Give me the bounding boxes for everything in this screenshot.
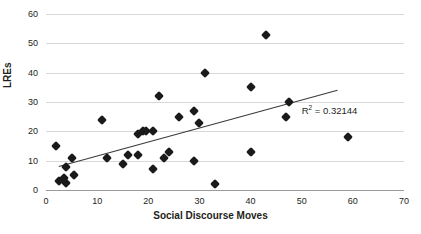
trendline [46,14,404,190]
x-tick-label-40: 40 [246,196,256,206]
x-tick-label-60: 60 [348,196,358,206]
y-tick-label-0: 0 [8,185,38,195]
r-squared-annotation: R2 = 0.32144 [302,104,358,116]
x-tick-label-0: 0 [43,196,48,206]
y-axis-ticks: 0102030405060 [0,0,46,234]
y-tick-label-60: 60 [8,9,38,19]
y-tick-label-30: 30 [8,97,38,107]
y-tick-label-20: 20 [8,126,38,136]
scatter-chart: 0102030405060 010203040506070 R2 = 0.321… [0,0,421,234]
x-tick-label-50: 50 [297,196,307,206]
y-tick-label-10: 10 [8,156,38,166]
x-tick-label-70: 70 [399,196,409,206]
gridline-y-0 [46,190,404,191]
x-tick-label-30: 30 [194,196,204,206]
x-tick-label-20: 20 [143,196,153,206]
y-tick-label-50: 50 [8,38,38,48]
x-tick-label-10: 10 [92,196,102,206]
y-axis-label: LREs [2,62,13,88]
x-axis-label: Social Discourse Moves [0,210,421,221]
plot-area [46,14,404,190]
